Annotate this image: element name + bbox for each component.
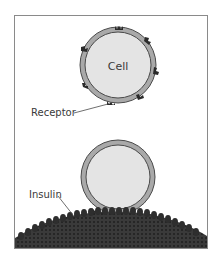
cell-body (86, 145, 150, 209)
receptor-label: Receptor (31, 107, 77, 118)
cell-label: Cell (108, 60, 129, 73)
insulin-label: Insulin (29, 189, 62, 200)
insulin-receptor-diagram: Cell Receptor (0, 0, 220, 262)
